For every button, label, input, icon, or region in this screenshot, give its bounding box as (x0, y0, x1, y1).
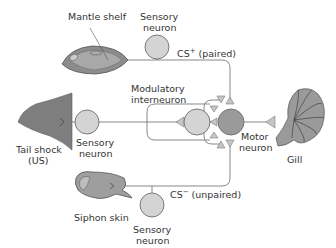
modulatory-label-1: Modulatory (131, 83, 185, 94)
sensory-mid-label-2: neuron (79, 148, 112, 159)
neural-circuit-diagram: Mantle shelf Sensory neuron CS+ (paired)… (0, 0, 336, 248)
cs-minus-base: CS (170, 189, 183, 200)
gill-organ (276, 89, 324, 146)
sensory-bottom-label-1: Sensory (133, 224, 172, 235)
synapse-upper-mid (210, 106, 218, 112)
synapse-mid (210, 118, 217, 126)
cs-minus-note: (unpaired) (189, 189, 242, 200)
synapse-modulatory-input (176, 117, 184, 127)
motor-neuron-label-2: neuron (239, 142, 272, 153)
motor-neuron-label-1: Motor (241, 131, 269, 142)
tail-shock-label-1: Tail shock (15, 144, 62, 155)
mantle-shelf-label: Mantle shelf (68, 11, 127, 22)
cs-plus-note: (paired) (196, 48, 237, 59)
modulatory-label-2: interneuron (131, 94, 186, 105)
synapse-gill (266, 116, 275, 128)
synapse-top-left (217, 96, 225, 103)
cs-plus-label: CS+ (paired) (177, 47, 236, 59)
sensory-neuron-bottom (140, 193, 164, 217)
cs-plus-base: CS (177, 48, 190, 59)
siphon-skin-label: Siphon skin (74, 212, 129, 223)
modulatory-interneuron (184, 109, 210, 135)
synapse-bottom-right (226, 140, 234, 147)
cs-minus-pathway-wire (112, 144, 230, 186)
synapse-lower-mid (210, 132, 218, 138)
sensory-top-label-2: neuron (143, 22, 176, 33)
mantle-shelf-organ (62, 28, 128, 74)
cs-minus-label: CS− (unpaired) (170, 188, 241, 200)
gill-label: Gill (287, 154, 302, 165)
tail-organ (18, 93, 72, 150)
sensory-bottom-label-2: neuron (136, 235, 169, 246)
sensory-neuron-middle (75, 110, 99, 134)
sensory-neuron-top (145, 35, 169, 59)
tail-shock-label-2: (US) (28, 155, 48, 166)
sensory-mid-label-1: Sensory (76, 137, 115, 148)
synapse-bottom-left (217, 141, 225, 148)
siphon-skin-organ (75, 172, 132, 199)
sensory-top-label-1: Sensory (140, 11, 179, 22)
synapse-top-right (226, 97, 234, 104)
